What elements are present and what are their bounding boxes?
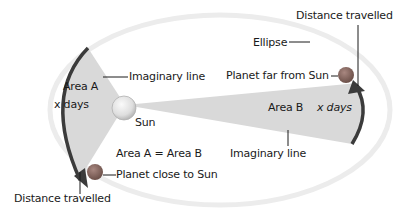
label-sun: Sun — [135, 117, 155, 129]
label-equation: Area A = Area B — [116, 148, 202, 160]
label-area-a: Area A — [63, 81, 98, 93]
sun-icon — [112, 96, 136, 120]
label-imaginary-bottom: Imaginary line — [230, 148, 306, 160]
label-imaginary-top: Imaginary line — [129, 71, 205, 83]
planet-far-icon — [338, 67, 354, 83]
label-ellipse: Ellipse — [253, 37, 287, 49]
arrow-head-b — [348, 80, 365, 94]
label-distance-top: Distance travelled — [296, 10, 393, 22]
label-x-days-a: x days — [54, 99, 89, 111]
label-distance-bottom: Distance travelled — [14, 193, 111, 205]
label-x-days-b: x days — [317, 102, 352, 114]
label-area-b: Area B — [268, 102, 303, 114]
label-planet-close: Planet close to Sun — [116, 169, 217, 181]
planet-close-icon — [87, 164, 103, 180]
label-planet-far: Planet far from Sun — [226, 70, 329, 82]
